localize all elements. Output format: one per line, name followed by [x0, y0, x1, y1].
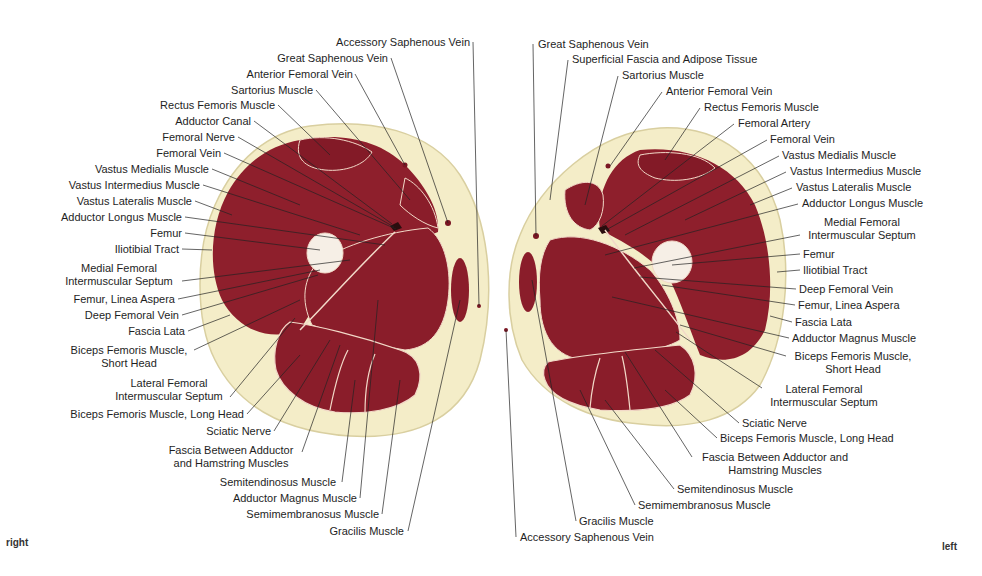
label-iliotibial-tract-right: Iliotibial Tract	[111, 243, 179, 256]
label-semitendinosus-muscle-left: Semitendinosus Muscle	[677, 483, 805, 496]
label-femoral-vein-right: Femoral Vein	[151, 147, 221, 160]
label-rectus-femoris-muscle-left: Rectus Femoris Muscle	[704, 101, 828, 114]
left-thigh-femur	[652, 241, 692, 283]
label-iliotibial-tract-left: Iliotibial Tract	[803, 264, 873, 277]
label-vastus-intermedius-muscle-left: Vastus Intermedius Muscle	[790, 165, 935, 178]
label-fascia-lata-right: Fascia Lata	[124, 325, 185, 338]
label-femoral-vein-left: Femoral Vein	[770, 133, 840, 146]
label-lateral-femoral-intermuscular-septum-right: Lateral Femoral Intermuscular Septum	[110, 377, 228, 403]
label-femoral-artery-left: Femoral Artery	[738, 117, 818, 130]
label-lateral-femoral-intermuscular-septum-left: Lateral Femoral Intermuscular Septum	[765, 383, 883, 409]
label-gracilis-muscle-right: Gracilis Muscle	[324, 525, 404, 538]
right-thigh-gracilis	[451, 258, 469, 322]
label-anterior-femoral-vein-right: Anterior Femoral Vein	[237, 68, 353, 81]
side-label-right: right	[6, 537, 28, 548]
label-deep-femoral-vein-left: Deep Femoral Vein	[799, 283, 899, 296]
label-rectus-femoris-muscle-right: Rectus Femoris Muscle	[148, 99, 275, 112]
right-thigh-femur	[307, 233, 343, 273]
label-semimembranosus-muscle-left: Semimembranosus Muscle	[638, 499, 783, 512]
label-biceps-femoris-long-head-left: Biceps Femoris Muscle, Long Head	[720, 432, 910, 445]
label-superficial-fascia-adipose-left: Superficial Fascia and Adipose Tissue	[572, 53, 780, 66]
right-thigh-section	[200, 124, 489, 437]
label-sartorius-muscle-left: Sartorius Muscle	[622, 69, 712, 82]
label-adductor-longus-muscle-left: Adductor Longus Muscle	[802, 197, 934, 210]
label-femoral-nerve-right: Femoral Nerve	[155, 131, 235, 144]
label-vastus-medialis-muscle-left: Vastus Medialis Muscle	[782, 149, 906, 162]
label-vastus-intermedius-muscle-right: Vastus Intermedius Muscle	[57, 179, 200, 192]
label-sciatic-nerve-left: Sciatic Nerve	[742, 417, 814, 430]
label-vastus-medialis-muscle-right: Vastus Medialis Muscle	[85, 163, 209, 176]
label-fascia-between-adductor-hamstring-left: Fascia Between Adductor and Hamstring Mu…	[695, 451, 855, 477]
label-accessory-saphenous-vein-left: Accessory Saphenous Vein	[520, 531, 668, 544]
label-femur-linea-aspera-right: Femur, Linea Aspera	[65, 293, 175, 306]
label-semimembranosus-muscle-right: Semimembranosus Muscle	[234, 508, 379, 521]
label-femur-linea-aspera-left: Femur, Linea Aspera	[798, 299, 910, 312]
left-thigh-anterior-femoral-vein	[606, 164, 611, 169]
thigh-cross-section-figure: Accessory Saphenous Vein Great Saphenous…	[0, 0, 982, 576]
label-sartorius-muscle-right: Sartorius Muscle	[222, 84, 313, 97]
label-vastus-lateralis-muscle-right: Vastus Lateralis Muscle	[66, 195, 192, 208]
label-biceps-femoris-long-head-right: Biceps Femoris Muscle, Long Head	[54, 408, 244, 421]
label-anterior-femoral-vein-left: Anterior Femoral Vein	[666, 85, 784, 98]
label-femur-right: Femur	[146, 227, 182, 240]
label-adductor-magnus-muscle-left: Adductor Magnus Muscle	[792, 332, 928, 345]
label-vastus-lateralis-muscle-left: Vastus Lateralis Muscle	[796, 181, 922, 194]
label-gracilis-muscle-left: Gracilis Muscle	[579, 515, 661, 528]
label-biceps-femoris-short-head-right: Biceps Femoris Muscle, Short Head	[66, 344, 192, 370]
label-great-saphenous-vein-right: Great Saphenous Vein	[268, 52, 388, 65]
label-adductor-canal-right: Adductor Canal	[167, 115, 251, 128]
label-femur-left: Femur	[803, 248, 839, 261]
label-sciatic-nerve-right: Sciatic Nerve	[199, 425, 271, 438]
label-fascia-between-adductor-hamstring-right: Fascia Between Adductor and Hamstring Mu…	[163, 444, 299, 470]
label-adductor-magnus-muscle-right: Adductor Magnus Muscle	[221, 492, 357, 505]
side-label-left: left	[942, 541, 957, 552]
label-medial-femoral-intermuscular-septum-right: Medial Femoral Intermuscular Septum	[60, 262, 178, 288]
left-thigh-gracilis	[519, 252, 537, 312]
label-deep-femoral-vein-right: Deep Femoral Vein	[79, 309, 179, 322]
left-thigh-section	[504, 128, 786, 426]
label-accessory-saphenous-vein-right: Accessory Saphenous Vein	[324, 36, 470, 49]
label-adductor-longus-muscle-right: Adductor Longus Muscle	[51, 211, 182, 224]
label-medial-femoral-intermuscular-septum-left: Medial Femoral Intermuscular Septum	[803, 216, 921, 242]
label-fascia-lata-left: Fascia Lata	[795, 316, 856, 329]
label-biceps-femoris-short-head-left: Biceps Femoris Muscle, Short Head	[789, 350, 917, 376]
label-great-saphenous-vein-left: Great Saphenous Vein	[538, 38, 662, 51]
label-semitendinosus-muscle-right: Semitendinosus Muscle	[208, 476, 336, 489]
